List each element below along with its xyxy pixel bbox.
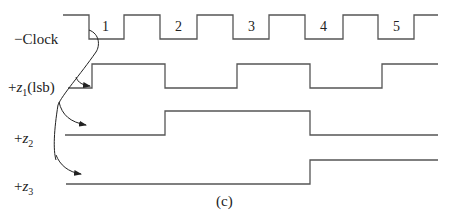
z1-suffix: (lsb): [27, 79, 55, 95]
label-z1: +z1(lsb): [8, 79, 55, 98]
pulse-number-4: 4: [320, 19, 327, 35]
pulse-number-2: 2: [175, 19, 182, 35]
figure-caption: (c): [216, 193, 233, 210]
pulse-number-3: 3: [248, 19, 255, 35]
z2-sub: 2: [28, 138, 33, 149]
clock-edge-loop-arrow: [89, 30, 98, 52]
arrow-to-z2: [59, 102, 86, 125]
z3-sub: 3: [28, 186, 33, 197]
z2-waveform: [65, 111, 438, 135]
arrow-to-z1: [76, 77, 90, 86]
z3-waveform: [66, 160, 438, 184]
label-z2: +z2: [14, 130, 33, 149]
label-clock: −Clock: [14, 31, 58, 48]
clock-name: Clock: [22, 31, 58, 47]
z1-waveform: [68, 64, 438, 88]
label-z3: +z3: [14, 178, 33, 197]
arrow-to-z3: [56, 155, 81, 174]
pulse-number-5: 5: [393, 19, 400, 35]
timing-diagram: [0, 0, 449, 220]
pulse-number-1: 1: [102, 19, 109, 35]
